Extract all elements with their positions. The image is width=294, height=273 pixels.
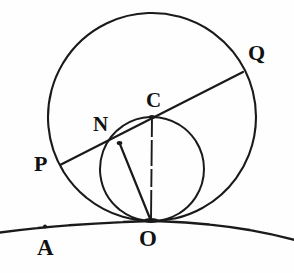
label-c: C [146, 90, 161, 111]
point-n-marker [117, 141, 123, 145]
label-n: N [93, 114, 108, 135]
segment-no [120, 143, 152, 221]
point-c-marker [149, 115, 155, 119]
label-q: Q [248, 42, 265, 64]
geometry-figure: Q C N P O A [0, 0, 294, 273]
label-a: A [37, 236, 54, 259]
segment-co [151, 117, 152, 221]
label-p: P [34, 153, 47, 175]
label-o: O [139, 227, 157, 250]
point-a-marker [43, 225, 47, 229]
point-o-marker [144, 218, 159, 223]
